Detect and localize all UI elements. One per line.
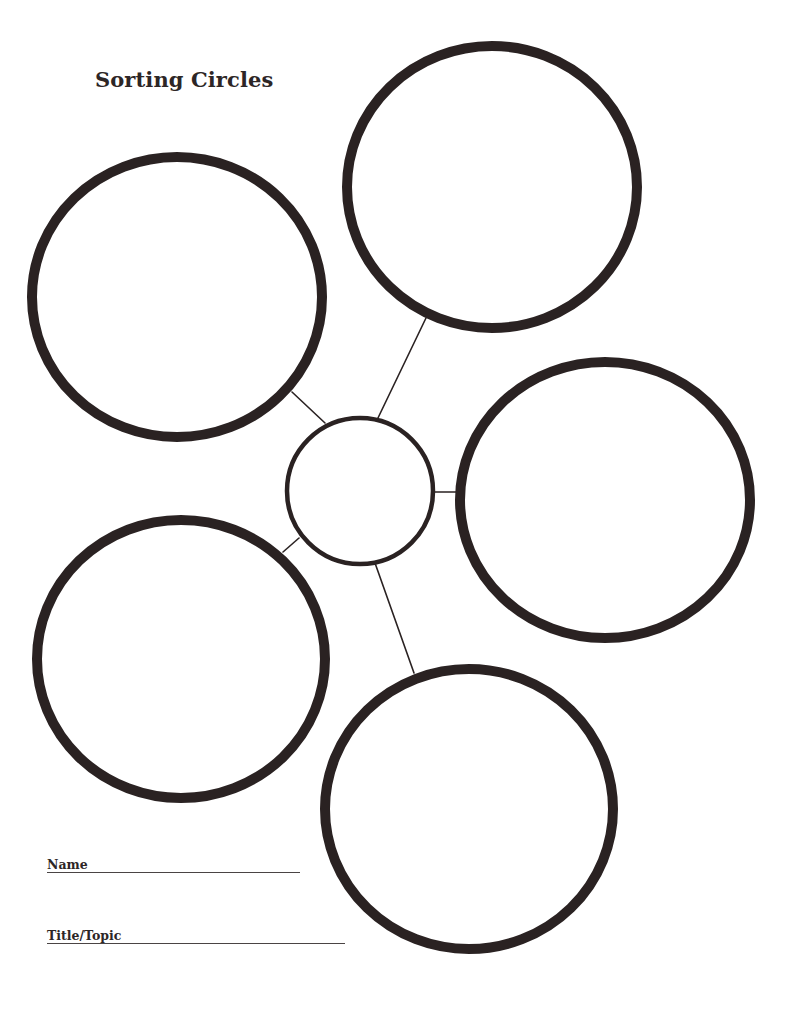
title-topic-line[interactable] bbox=[121, 943, 345, 944]
name-line[interactable] bbox=[88, 872, 300, 873]
connector-line-upper-left bbox=[292, 392, 325, 423]
sorting-circle-upper-left[interactable] bbox=[32, 157, 322, 437]
connector-line-lower-left bbox=[283, 538, 299, 552]
sorting-circle-lower-left[interactable] bbox=[37, 520, 325, 798]
sorting-circle-bottom[interactable] bbox=[325, 669, 613, 949]
sorting-circle-top[interactable] bbox=[347, 46, 637, 328]
connector-line-top bbox=[377, 318, 426, 420]
center-circle-group bbox=[287, 418, 433, 564]
sorting-circles-worksheet: Sorting Circles Name Title/Topic bbox=[0, 0, 789, 1014]
name-field[interactable]: Name bbox=[47, 858, 300, 873]
center-circle[interactable] bbox=[287, 418, 433, 564]
name-label: Name bbox=[47, 858, 88, 873]
sorting-circle-right[interactable] bbox=[460, 362, 750, 638]
title-topic-field[interactable]: Title/Topic bbox=[47, 929, 345, 944]
connector-line-bottom bbox=[375, 563, 414, 673]
title-topic-label: Title/Topic bbox=[47, 929, 121, 944]
